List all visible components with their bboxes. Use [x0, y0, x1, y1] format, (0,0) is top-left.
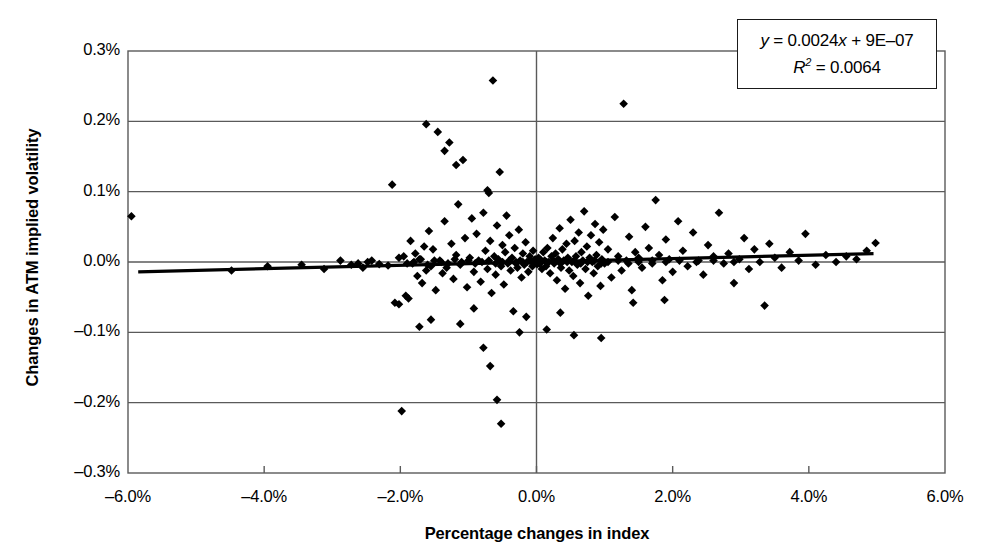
scatter-point	[561, 284, 570, 293]
scatter-point	[555, 224, 564, 233]
scatter-point	[607, 273, 616, 282]
scatter-point	[461, 234, 470, 243]
y-tick-label: –0.3%	[48, 462, 120, 481]
scatter-point	[514, 225, 523, 234]
scatter-point	[445, 138, 454, 147]
scatter-point	[765, 239, 774, 248]
scatter-point	[668, 268, 677, 277]
scatter-point	[750, 245, 759, 254]
scatter-point	[683, 262, 692, 271]
scatter-point	[493, 221, 502, 230]
regression-equation-box: y = 0.0024x + 9E–07 R2 = 0.0064	[737, 19, 937, 89]
y-tick-label: 0.0%	[48, 251, 120, 270]
x-tick-label: 2.0%	[628, 487, 718, 506]
scatter-point	[556, 308, 565, 317]
x-tick-label: –2.0%	[355, 487, 445, 506]
scatter-point	[641, 223, 650, 232]
y-tick-label: 0.1%	[48, 181, 120, 200]
scatter-point	[483, 265, 492, 274]
x-axis-tick-marks	[264, 466, 809, 473]
scatter-point	[481, 246, 490, 255]
r-squared-value: = 0.0064	[811, 57, 881, 76]
scatter-point	[336, 256, 345, 265]
scatter-point	[760, 301, 769, 310]
scatter-point	[479, 208, 488, 217]
scatter-point	[479, 344, 488, 353]
x-tick-label: 6.0%	[900, 487, 990, 506]
r-squared-symbol: R	[793, 57, 805, 76]
scatter-point	[427, 315, 436, 324]
scatter-point	[777, 263, 786, 272]
scatter-point	[794, 256, 803, 265]
scatter-point	[574, 228, 583, 237]
scatter-point	[388, 180, 397, 189]
scatter-point	[454, 200, 463, 209]
scatter-chart: Changes in ATM implied volatility Percen…	[0, 0, 994, 560]
y-tick-label: 0.3%	[48, 40, 120, 59]
x-axis-title: Percentage changes in index	[128, 524, 946, 543]
scatter-point	[662, 235, 671, 244]
scatter-point	[625, 232, 634, 241]
scatter-point	[486, 237, 495, 246]
scatter-point	[610, 213, 619, 222]
scatter-point	[580, 207, 589, 216]
scatter-point	[576, 279, 585, 288]
equation-y-symbol: y	[760, 31, 768, 50]
scatter-point	[497, 419, 506, 428]
scatter-point	[549, 234, 558, 243]
scatter-point	[719, 259, 728, 268]
scatter-point	[628, 286, 637, 295]
scatter-point	[553, 276, 562, 285]
scatter-point	[597, 334, 606, 343]
scatter-point	[472, 230, 481, 239]
scatter-point	[570, 237, 579, 246]
scatter-point	[502, 211, 511, 220]
scatter-point	[645, 244, 654, 253]
scatter-point	[591, 220, 600, 229]
scatter-point	[501, 248, 510, 257]
scatter-point	[489, 76, 498, 85]
scatter-point	[596, 282, 605, 291]
scatter-point	[745, 265, 754, 274]
scatter-point	[584, 291, 593, 300]
y-axis-title: Changes in ATM implied volatility	[23, 93, 42, 423]
scatter-point	[679, 246, 688, 255]
x-tick-label: 4.0%	[764, 487, 854, 506]
scatter-point	[629, 298, 638, 307]
scatter-point	[431, 286, 440, 295]
scatter-point	[418, 279, 427, 288]
scatter-point	[599, 225, 608, 234]
scatter-point	[704, 241, 713, 250]
scatter-point	[674, 217, 683, 226]
regression-equation-line: y = 0.0024x + 9E–07	[760, 28, 913, 54]
scatter-point	[500, 280, 509, 289]
scatter-point	[522, 313, 531, 322]
scatter-point	[871, 239, 880, 248]
scatter-point	[440, 217, 449, 226]
scatter-point	[498, 241, 507, 250]
scatter-point	[699, 270, 708, 279]
scatter-point	[406, 237, 415, 246]
scatter-point	[581, 265, 590, 274]
y-tick-label: –0.2%	[48, 392, 120, 411]
scatter-point	[587, 231, 596, 240]
scatter-point	[510, 244, 519, 253]
scatter-point	[397, 407, 406, 416]
scatter-point	[566, 216, 575, 225]
scatter-point	[521, 238, 530, 247]
scatter-point	[505, 231, 514, 240]
scatter-point	[651, 196, 660, 205]
scatter-point	[756, 258, 765, 267]
scatter-point	[715, 208, 724, 217]
scatter-point	[447, 239, 456, 248]
scatter-point	[583, 242, 592, 251]
scatter-point	[619, 99, 628, 108]
scatter-point	[589, 269, 598, 278]
x-tick-label: 0.0%	[492, 487, 582, 506]
y-tick-label: 0.2%	[48, 110, 120, 129]
equation-y-tail: + 9E–07	[847, 31, 914, 50]
scatter-point	[617, 266, 626, 275]
scatter-point	[801, 230, 810, 239]
scatter-points-group	[127, 76, 880, 428]
scatter-point	[413, 272, 422, 281]
